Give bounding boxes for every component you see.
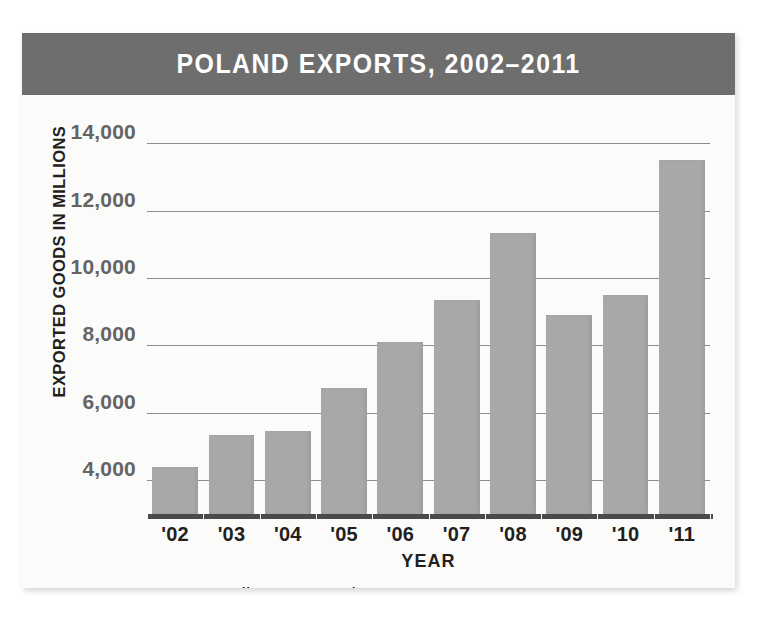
page-title: POLAND EXPORTS, 2002–2011 (176, 49, 580, 80)
x-axis-tick-label: '10 (597, 523, 653, 546)
x-axis-tick (316, 514, 317, 519)
x-axis-tick (654, 514, 655, 519)
source-label: Source: (130, 584, 199, 588)
bar-series (147, 123, 710, 514)
x-axis-tick-label: '06 (372, 523, 428, 546)
source-note: Source: Trading Economics (130, 584, 374, 588)
y-axis-title: EXPORTED GOODS IN MILLIONS (50, 148, 69, 398)
x-axis-tick (260, 514, 261, 519)
bar-08 (490, 233, 536, 514)
x-axis-tick-label: '08 (485, 523, 541, 546)
x-axis-tick-label: '07 (429, 523, 485, 546)
x-axis-tick-label: '04 (260, 523, 316, 546)
y-axis-tick-label: 6,000 (82, 390, 136, 414)
x-axis-tick-label: '05 (316, 523, 372, 546)
x-axis-tick-label: '11 (654, 523, 710, 546)
y-axis-tick-label: 10,000 (71, 255, 136, 279)
x-axis-title: YEAR (147, 551, 710, 572)
title-banner: POLAND EXPORTS, 2002–2011 (22, 33, 735, 95)
x-axis-tick (485, 514, 486, 519)
bar-03 (209, 435, 255, 514)
chart-body: EXPORTED GOODS IN MILLIONS 4,0006,0008,0… (22, 95, 735, 588)
x-axis-tick (147, 514, 148, 519)
x-axis-tick (203, 514, 204, 519)
x-axis-tick (710, 514, 711, 519)
x-axis-tick (597, 514, 598, 519)
chart-card: POLAND EXPORTS, 2002–2011 EXPORTED GOODS… (22, 33, 735, 588)
y-axis-tick-label: 14,000 (71, 120, 136, 144)
y-axis-tick-label: 12,000 (71, 188, 136, 212)
x-axis-tick-label: '03 (203, 523, 259, 546)
x-axis-tick (429, 514, 430, 519)
x-axis-tick-label: '02 (147, 523, 203, 546)
bar-11 (659, 160, 705, 514)
x-axis-tick (372, 514, 373, 519)
screenshot-page: POLAND EXPORTS, 2002–2011 EXPORTED GOODS… (0, 0, 758, 620)
y-axis-tick-label: 8,000 (82, 322, 136, 346)
y-axis-tick-label: 4,000 (82, 457, 136, 481)
bar-10 (603, 295, 649, 514)
x-axis-tick (541, 514, 542, 519)
bar-06 (377, 342, 423, 514)
bar-09 (546, 315, 592, 514)
x-axis-tick-label: '09 (541, 523, 597, 546)
x-axis-tick-labels: '02'03'04'05'06'07'08'09'10'11 (147, 523, 710, 549)
bar-05 (321, 388, 367, 514)
plot-area: 4,0006,0008,00010,00012,00014,000 (147, 123, 710, 514)
bar-02 (152, 467, 198, 514)
bar-07 (434, 300, 480, 514)
source-value: Trading Economics (205, 584, 375, 588)
bar-04 (265, 431, 311, 514)
x-axis-line (147, 514, 713, 519)
